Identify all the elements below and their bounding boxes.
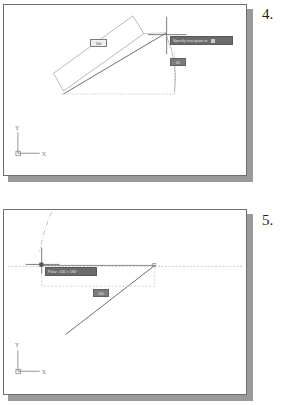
panel-shadow-bottom (8, 176, 253, 182)
svg-text:Y: Y (15, 343, 20, 349)
cad-viewport-step-4[interactable]: Y X (3, 4, 247, 176)
figure-step-4: Y X Specify next point or 100 45 (3, 4, 253, 182)
chevron-down-icon[interactable] (211, 39, 215, 43)
panel-shadow-right (247, 9, 253, 182)
dynamic-input-prompt-tooltip[interactable]: Specify next point or (170, 36, 233, 45)
step-number-4: 4. (262, 6, 273, 23)
pick-box (40, 263, 43, 266)
svg-text:X: X (42, 151, 47, 157)
dash-dot-curve (40, 212, 52, 252)
tooltip-text: Polar: 100 < 180° (48, 270, 78, 274)
tooltip-text: Specify next point or (173, 39, 208, 43)
rectangle-edge-extension (144, 33, 167, 34)
svg-text:X: X (42, 369, 47, 375)
cad-viewport-step-5[interactable]: Y X (3, 209, 247, 395)
figure-step-5: Y X Polar: 100 < 180° 100 (3, 209, 253, 401)
solid-diagonal-line (64, 33, 167, 94)
step-number-5: 5. (262, 212, 273, 229)
rotated-rectangle-outline (54, 16, 144, 91)
cad-drawing-canvas-5: Y X (4, 210, 246, 394)
panel-shadow-right (247, 214, 253, 401)
svg-text:Y: Y (15, 125, 20, 131)
length-value-box[interactable]: 100 (90, 39, 107, 47)
ucs-icon: Y X (15, 343, 47, 376)
figure-sheet: Y X Specify next point or 100 45 4. (0, 0, 282, 405)
cad-drawing-canvas-4: Y X (4, 5, 246, 175)
panel-shadow-bottom (8, 395, 253, 401)
angle-value-box[interactable]: 45 (170, 58, 186, 66)
polar-tracking-tooltip[interactable]: Polar: 100 < 180° (45, 267, 97, 276)
length-value-box[interactable]: 100 (93, 289, 109, 297)
ucs-icon: Y X (15, 125, 47, 158)
